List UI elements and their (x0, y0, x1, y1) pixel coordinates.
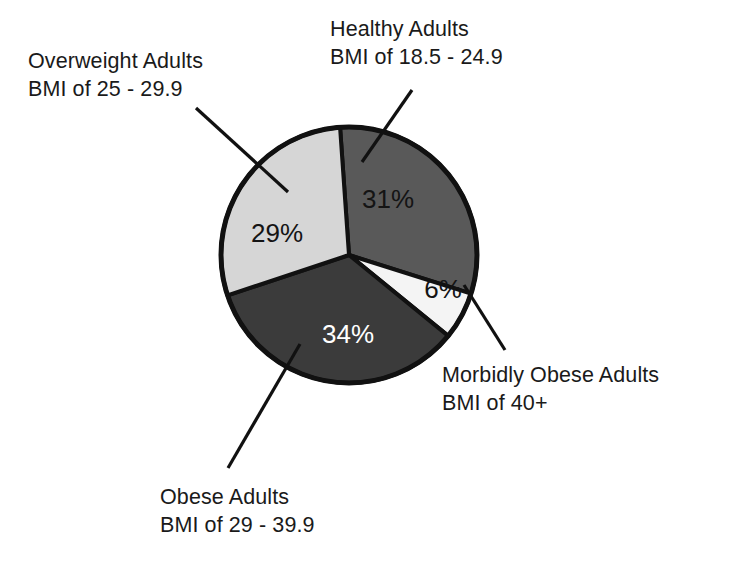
leader-line-morbid (464, 285, 505, 350)
callout-morbid-criteria: BMI of 40+ (442, 390, 659, 418)
callout-label-healthy: Healthy Adults BMI of 18.5 - 24.9 (330, 16, 503, 72)
callout-label-overweight: Overweight Adults BMI of 25 - 29.9 (28, 48, 203, 104)
callout-obese-criteria: BMI of 29 - 39.9 (160, 512, 315, 540)
pie-chart-figure: 31% 6% 34% 29% Overweight Adults BMI of … (0, 0, 736, 565)
callout-label-morbid: Morbidly Obese Adults BMI of 40+ (442, 362, 659, 418)
leader-line-obese (228, 344, 300, 468)
callout-overweight-title: Overweight Adults (28, 48, 203, 76)
callout-healthy-criteria: BMI of 18.5 - 24.9 (330, 44, 503, 72)
slice-value-morbid: 6% (424, 274, 462, 304)
callout-overweight-criteria: BMI of 25 - 29.9 (28, 76, 203, 104)
callout-healthy-title: Healthy Adults (330, 16, 503, 44)
callout-label-obese: Obese Adults BMI of 29 - 39.9 (160, 484, 315, 540)
slice-value-healthy: 31% (362, 184, 414, 214)
slice-value-overweight: 29% (251, 218, 303, 248)
callout-obese-title: Obese Adults (160, 484, 315, 512)
callout-morbid-title: Morbidly Obese Adults (442, 362, 659, 390)
slice-value-obese: 34% (322, 319, 374, 349)
